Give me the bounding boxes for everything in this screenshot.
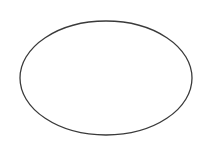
diagram-canvas: [0, 0, 203, 168]
ellipse-shape: [20, 21, 192, 135]
